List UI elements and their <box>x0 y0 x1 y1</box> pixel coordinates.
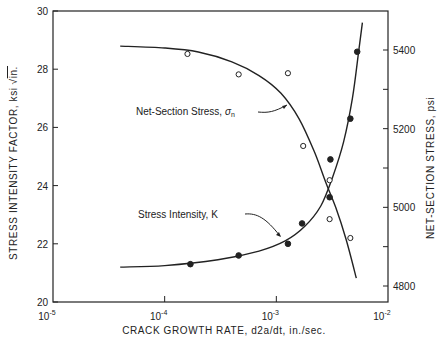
y2-axis-title: NET-SECTION STRESS, psi <box>425 97 436 239</box>
open-circle-marker-icon <box>285 71 290 76</box>
arrowhead-icon <box>276 232 281 237</box>
y-tick-label: 24 <box>37 181 49 192</box>
filled-circle-marker-icon <box>328 157 334 163</box>
annotation-net-section-label: Net-Section Stress, σn <box>136 106 235 118</box>
y2-tick-label: 4800 <box>393 281 416 292</box>
filled-circle-marker-icon <box>327 194 333 200</box>
curves <box>120 23 362 279</box>
y-tick-label: 20 <box>37 297 49 308</box>
annotation-stress-intensity-label: Stress Intensity, K <box>138 209 218 220</box>
y-tick-label: 26 <box>37 122 49 133</box>
open-circle-marker-icon <box>348 235 353 240</box>
open-circle-marker-icon <box>236 72 241 77</box>
y2-tick-label: 5400 <box>393 45 416 56</box>
y-tick-label: 28 <box>37 64 49 75</box>
filled-circle-marker-icon <box>285 241 291 247</box>
open-circle-marker-icon <box>185 51 190 56</box>
open-circle-marker-icon <box>327 178 332 183</box>
svg-text:NET-SECTION STRESS, psi: NET-SECTION STRESS, psi <box>425 97 436 239</box>
filled-circle-marker-icon <box>299 221 305 227</box>
open-circle-marker-icon <box>301 143 306 148</box>
arrowhead-icon <box>282 105 287 109</box>
series-curve <box>120 46 356 278</box>
plot-frame <box>53 11 388 302</box>
y-tick-label: 30 <box>37 6 49 17</box>
svg-text:STRESS INTENSITY FACTOR, ksi√i: STRESS INTENSITY FACTOR, ksi√in. <box>8 66 19 260</box>
filled-circle-marker-icon <box>236 253 242 259</box>
annotation-stress-intensity: Stress Intensity, K <box>138 209 281 237</box>
y2-tick-label: 5200 <box>393 124 416 135</box>
filled-circle-marker-icon <box>354 49 360 55</box>
data-markers <box>185 49 360 267</box>
x-tick-label: 10-2 <box>373 309 390 322</box>
x-tick-label: 10-3 <box>262 309 279 322</box>
y-tick-label: 22 <box>37 239 49 250</box>
series-curve <box>120 23 362 268</box>
filled-circle-marker-icon <box>348 116 354 122</box>
open-circle-marker-icon <box>327 217 332 222</box>
annotation-leader-line <box>245 214 280 236</box>
filled-circle-marker-icon <box>188 261 194 267</box>
annotation-net-section: Net-Section Stress, σn <box>136 105 287 118</box>
y-axis-title: STRESS INTENSITY FACTOR, ksi√in. <box>8 66 19 260</box>
x-axis-title: CRACK GROWTH RATE, d2a/dt, in./sec. <box>122 325 326 336</box>
y2-tick-label: 5000 <box>393 202 416 213</box>
chart: 10-510-410-310-2202224262830480050005200… <box>0 0 448 342</box>
x-tick-label: 10-5 <box>38 309 55 322</box>
x-tick-label: 10-4 <box>150 309 167 322</box>
